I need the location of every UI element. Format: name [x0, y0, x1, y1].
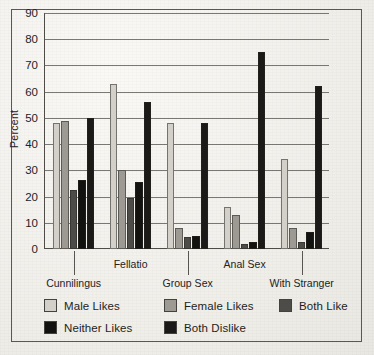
y-tick-label: 90 [25, 7, 38, 19]
legend-item: Both Dislike [164, 321, 246, 334]
y-tick-label: 30 [25, 164, 38, 176]
bar [281, 159, 288, 249]
bar [184, 237, 191, 249]
legend-swatch [164, 299, 177, 312]
bar [167, 123, 174, 249]
legend-swatch [279, 299, 292, 312]
legend-label: Neither Likes [64, 322, 132, 334]
bar [87, 118, 94, 249]
legend-swatch [164, 321, 177, 334]
bar [70, 190, 77, 249]
plot-area [44, 13, 329, 249]
bar [110, 84, 117, 249]
bar [232, 215, 239, 249]
y-tick-label: 0 [32, 243, 38, 255]
bar-group [281, 13, 322, 249]
bar [192, 236, 199, 249]
bar [53, 123, 60, 249]
legend-label: Both Like [299, 300, 348, 312]
y-tick-label: 40 [25, 138, 38, 150]
y-tick-label: 80 [25, 33, 38, 45]
label-leader-line [188, 251, 189, 275]
bar [315, 86, 322, 249]
y-tick-label: 70 [25, 59, 38, 71]
legend-swatch [44, 321, 57, 334]
bar [289, 228, 296, 249]
bar-group [110, 13, 151, 249]
legend-swatch [44, 299, 57, 312]
bar [78, 180, 85, 249]
bar [127, 198, 134, 249]
legend-item: Neither Likes [44, 321, 132, 334]
bar [258, 52, 265, 249]
y-tick-label: 10 [25, 217, 38, 229]
legend-label: Male Likes [64, 300, 120, 312]
chart-legend: Male LikesFemale LikesBoth LikeNeither L… [44, 299, 344, 343]
legend-label: Both Dislike [184, 322, 246, 334]
y-tick-label: 20 [25, 191, 38, 203]
x-axis-labels: CunnilingusFellatioGroup SexAnal SexWith… [44, 249, 329, 295]
bar [135, 182, 142, 249]
legend-item: Both Like [279, 299, 348, 312]
bar [224, 207, 231, 249]
legend-item: Male Likes [44, 299, 120, 312]
label-leader-line [74, 251, 75, 275]
x-tick-label: Fellatio [114, 258, 148, 270]
x-tick-label: Group Sex [163, 277, 213, 289]
x-tick-label: With Stranger [270, 277, 334, 289]
y-tick-label: 50 [25, 112, 38, 124]
bar [118, 170, 125, 249]
bar [306, 232, 313, 249]
y-axis-line [44, 13, 45, 249]
bar [175, 228, 182, 249]
bar [201, 123, 208, 249]
bar-group [224, 13, 265, 249]
y-axis-ticks: 0102030405060708090 [0, 13, 44, 249]
bar [144, 102, 151, 249]
bar-group [53, 13, 94, 249]
bar-group [167, 13, 208, 249]
label-leader-line [302, 251, 303, 275]
chart-figure: Percent 0102030405060708090 CunnilingusF… [0, 0, 374, 355]
legend-label: Female Likes [184, 300, 254, 312]
x-tick-label: Cunnilingus [46, 277, 101, 289]
bar [61, 121, 68, 249]
legend-item: Female Likes [164, 299, 254, 312]
x-tick-label: Anal Sex [224, 258, 266, 270]
y-tick-label: 60 [25, 86, 38, 98]
